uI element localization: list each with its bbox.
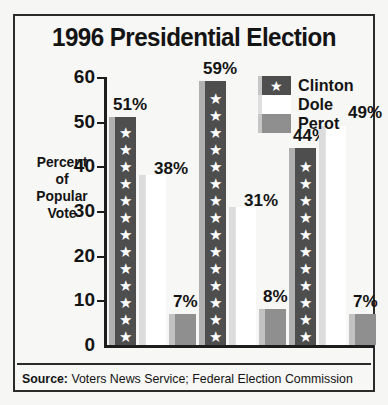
chart-figure: 1996 Presidential Election Percent of Po… (0, 0, 388, 405)
source-prefix: Source: (22, 371, 68, 386)
legend-label-dole: Dole (298, 95, 333, 115)
legend-swatch-dole (262, 95, 291, 114)
y-axis-tick-label: 10 (74, 289, 95, 311)
chart-legend: ★ Clinton Dole Perot (262, 76, 357, 133)
star-pattern-icon: ★★★★★★★★★★★★★★★ (205, 81, 226, 345)
legend-item-perot: Perot (262, 114, 357, 133)
page-title: 1996 Presidential Election (28, 22, 361, 53)
y-axis-tick-label: 40 (74, 155, 95, 177)
chart-frame: 1996 Presidential Election Percent of Po… (13, 14, 375, 392)
x-axis-line (104, 345, 374, 348)
y-axis-tick-label: 20 (74, 244, 95, 266)
legend-label-perot: Perot (298, 114, 339, 134)
source-text: Voters News Service; Federal Election Co… (71, 371, 352, 386)
bar-perot-new-york[interactable] (265, 309, 286, 345)
source-note: Source: Voters News Service; Federal Ele… (22, 371, 353, 386)
y-axis-line (104, 77, 107, 348)
y-axis-tick (97, 122, 104, 124)
y-axis-tick-label: 0 (84, 334, 95, 356)
legend-label-clinton: Clinton (298, 76, 354, 96)
y-axis-tick-label: 60 (74, 66, 95, 88)
bar-group-california: ★★★★★★★★★★★★★ (115, 77, 205, 345)
bar-perot-california[interactable] (175, 314, 196, 345)
y-axis-tick (97, 166, 104, 168)
legend-swatch-perot (262, 114, 291, 133)
star-pattern-icon: ★★★★★★★★★★★ (295, 148, 316, 345)
bar-clinton-california[interactable]: ★★★★★★★★★★★★★ (115, 117, 136, 345)
star-icon: ★ (262, 76, 291, 95)
y-axis-tick (97, 211, 104, 213)
y-axis-tick-label: 30 (74, 200, 95, 222)
legend-swatch-clinton: ★ (262, 76, 291, 95)
bar-dole-new-york[interactable] (235, 207, 256, 345)
bar-clinton-new-york[interactable]: ★★★★★★★★★★★★★★★ (205, 81, 226, 345)
bar-dole-texas[interactable] (325, 126, 346, 345)
legend-item-dole: Dole (262, 95, 357, 114)
bar-clinton-texas[interactable]: ★★★★★★★★★★★ (295, 148, 316, 345)
y-axis-tick (97, 77, 104, 79)
y-axis-tick (97, 300, 104, 302)
source-divider (17, 363, 371, 365)
legend-item-clinton: ★ Clinton (262, 76, 357, 95)
y-axis-tick (97, 256, 104, 258)
bar-perot-texas[interactable] (355, 314, 376, 345)
star-pattern-icon: ★★★★★★★★★★★★★ (115, 117, 136, 345)
bar-dole-california[interactable] (145, 175, 166, 345)
y-axis-tick-label: 50 (74, 110, 95, 132)
